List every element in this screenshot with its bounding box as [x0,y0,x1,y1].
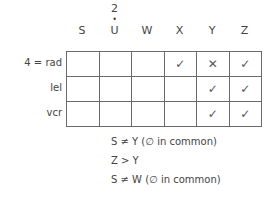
grid-cell [67,52,100,77]
column-dot-u: • [99,16,131,24]
note-z-greater-y: Z > Y [111,155,139,166]
column-header-u: U [99,24,131,37]
grid-cell [164,102,197,127]
column-header-z: Z [229,24,261,37]
note-s-not-y: S ≠ Y (∅ in common) [111,136,217,147]
grid-cell-check: ✓ [197,77,230,102]
grid-cell [67,102,100,127]
grid-cell-cross: ✕ [197,52,230,77]
row-label-vcr: vcr [46,107,62,118]
grid-cell [99,52,132,77]
logic-grid: ✓ ✕ ✓ ✓ ✓ ✓ ✓ [66,51,262,127]
grid-cell [99,77,132,102]
column-header-s: S [66,24,98,37]
column-header-w: W [131,24,163,37]
grid-cell [67,77,100,102]
grid-cell [164,77,197,102]
grid-cell-check: ✓ [229,52,262,77]
column-header-x: X [164,24,196,37]
row-label-lel: lel [50,82,62,93]
grid-cell-check: ✓ [197,102,230,127]
grid-cell [132,102,165,127]
note-s-not-w: S ≠ W (∅ in common) [111,174,221,185]
grid-row-lel: ✓ ✓ [67,77,262,102]
column-header-y: Y [196,24,228,37]
grid-cell-check: ✓ [164,52,197,77]
column-superscript-u: 2 [99,2,131,15]
grid-cell-check: ✓ [229,77,262,102]
grid-cell [132,77,165,102]
grid-row-vcr: ✓ ✓ [67,102,262,127]
grid-row-rad: ✓ ✕ ✓ [67,52,262,77]
grid-cell [99,102,132,127]
grid-cell [132,52,165,77]
grid-cell-check: ✓ [229,102,262,127]
row-label-rad: 4 = rad [24,57,62,68]
